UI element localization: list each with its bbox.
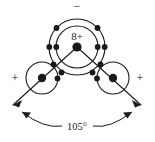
water-molecule-diagram: 8+ − + + 105°: [0, 0, 155, 142]
bond-axis-arrowheads: [13, 100, 141, 108]
electron-dot: [59, 70, 65, 76]
electron-dot: [102, 44, 108, 50]
right-positive-charge-label: +: [137, 71, 144, 85]
negative-charge-label: −: [74, 0, 81, 13]
electron-dot: [54, 25, 60, 31]
bond-axis-right: [77, 47, 141, 105]
electron-dot: [94, 76, 100, 82]
electron-dot: [51, 62, 57, 68]
molecule-canvas: 8+ − + + 105°: [0, 0, 155, 142]
electron-dot: [55, 76, 61, 82]
oxygen-nucleus-label: 8+: [71, 30, 83, 42]
oxygen-nucleus-dot: [72, 42, 81, 51]
electron-dot: [46, 44, 52, 50]
hydrogen-left-nucleus-dot: [38, 74, 46, 82]
electron-dot: [95, 25, 101, 31]
electron-dot: [90, 70, 96, 76]
left-positive-charge-label: +: [12, 71, 19, 85]
hydrogen-electrons: [55, 76, 100, 82]
electron-dot: [98, 62, 104, 68]
angle-arc-arrowheads: [22, 112, 132, 119]
hydrogen-right-nucleus-dot: [109, 74, 117, 82]
electron-dot: [95, 44, 101, 50]
bond-axis-arrows: [13, 47, 141, 105]
bond-angle-label: 105°: [67, 121, 87, 132]
electron-dot: [53, 44, 59, 50]
